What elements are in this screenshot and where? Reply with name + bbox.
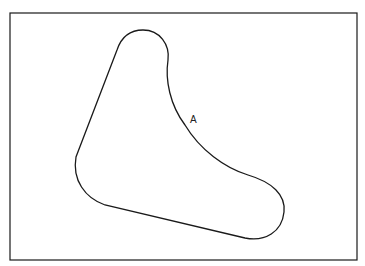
region-label-a: A — [190, 114, 197, 125]
diagram-canvas — [0, 0, 365, 266]
closed-curve-region — [75, 30, 284, 239]
